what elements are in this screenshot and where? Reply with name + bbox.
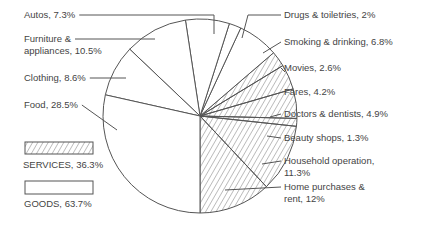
pie-slices xyxy=(103,19,297,213)
pie-slice-food xyxy=(103,95,200,213)
legend: SERVICES, 36.3% GOODS, 63.7% xyxy=(23,142,104,209)
slice-label: Movies, 2.6% xyxy=(284,62,342,73)
slice-label: Doctors & dentists, 4.9% xyxy=(284,108,389,119)
legend-label-goods: GOODS, 63.7% xyxy=(24,198,92,209)
slice-label: Furniture &appliances, 10.5% xyxy=(24,33,102,56)
slice-label: Drugs & toiletries, 2% xyxy=(284,9,376,20)
legend-label-services: SERVICES, 36.3% xyxy=(23,159,104,170)
slice-label: Food, 28.5% xyxy=(24,99,78,110)
pie-chart: Home purchases &rent, 12%Household opera… xyxy=(0,0,437,227)
legend-swatch-goods xyxy=(25,181,93,194)
legend-swatch-services xyxy=(25,142,93,154)
slice-label: Home purchases &rent, 12% xyxy=(284,181,365,204)
slice-label: Household operation,11.3% xyxy=(284,155,374,178)
slice-label: Smoking & drinking, 6.8% xyxy=(284,36,393,47)
slice-label: Fares, 4.2% xyxy=(284,86,336,97)
slice-label: Clothing, 8.6% xyxy=(24,72,86,83)
slice-label: Autos, 7.3% xyxy=(24,9,76,20)
slice-label: Beauty shops, 1.3% xyxy=(284,132,369,143)
